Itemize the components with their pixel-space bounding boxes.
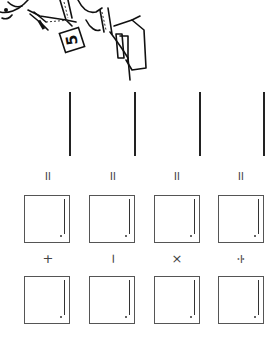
times-operator: ×: [167, 252, 187, 266]
box-start-dot: [254, 316, 257, 319]
answer-box-top-2[interactable]: [89, 195, 135, 243]
equals-sign-2: =: [106, 166, 120, 186]
number-card: 5: [59, 27, 84, 52]
box-writing-line: [64, 280, 66, 315]
box-start-dot: [125, 235, 128, 238]
answer-line-4[interactable]: [263, 92, 265, 156]
answer-line-1[interactable]: [69, 92, 71, 156]
answer-line-2[interactable]: [134, 92, 136, 156]
answer-box-top-1[interactable]: [24, 195, 70, 243]
box-writing-line: [194, 199, 196, 234]
box-start-dot: [254, 235, 257, 238]
answer-box-top-3[interactable]: [154, 195, 200, 243]
child-with-number-card-illustration: 5: [0, 0, 160, 82]
answer-line-3[interactable]: [199, 92, 201, 156]
equals-sign-4: =: [234, 166, 248, 186]
equals-sign-3: =: [170, 166, 184, 186]
box-start-dot: [125, 316, 128, 319]
box-writing-line: [64, 199, 66, 234]
equals-sign-1: =: [41, 166, 55, 186]
box-start-dot: [60, 316, 63, 319]
plus-operator: +: [38, 252, 58, 266]
box-writing-line: [258, 199, 260, 234]
minus-operator: −: [106, 249, 120, 269]
answer-box-bottom-2[interactable]: [89, 276, 135, 324]
box-start-dot: [190, 235, 193, 238]
answer-box-bottom-4[interactable]: [218, 276, 264, 324]
box-writing-line: [129, 280, 131, 315]
answer-box-top-4[interactable]: [218, 195, 264, 243]
answer-box-bottom-3[interactable]: [154, 276, 200, 324]
answer-box-bottom-1[interactable]: [24, 276, 70, 324]
box-writing-line: [129, 199, 131, 234]
box-start-dot: [190, 316, 193, 319]
divide-operator: ÷: [234, 249, 248, 269]
box-start-dot: [60, 235, 63, 238]
box-writing-line: [194, 280, 196, 315]
box-writing-line: [258, 280, 260, 315]
